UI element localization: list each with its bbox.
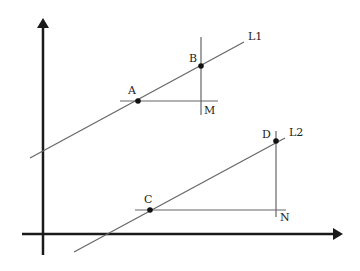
point-c [147,207,153,213]
point-label-d: D [262,128,271,141]
corner-label-n: N [280,211,290,224]
y-axis-arrow-icon [37,18,49,28]
line-label-l1: L1 [248,30,262,43]
line-label-l2: L2 [289,126,303,139]
point-label-a: A [127,84,137,97]
x-axis-arrow-icon [333,228,343,240]
point-label-b: B [189,52,197,65]
labels: L1L2ABCDMN [127,30,303,224]
similar-triangles-diagram: L1L2ABCDMN [0,0,360,271]
point-label-c: C [144,193,152,206]
point-b [198,63,204,69]
point-d [273,138,279,144]
points [135,63,279,213]
slanted-lines [30,42,285,252]
point-a [135,98,141,104]
diagram-canvas: L1L2ABCDMN [0,0,360,271]
corner-label-m: M [204,104,215,117]
